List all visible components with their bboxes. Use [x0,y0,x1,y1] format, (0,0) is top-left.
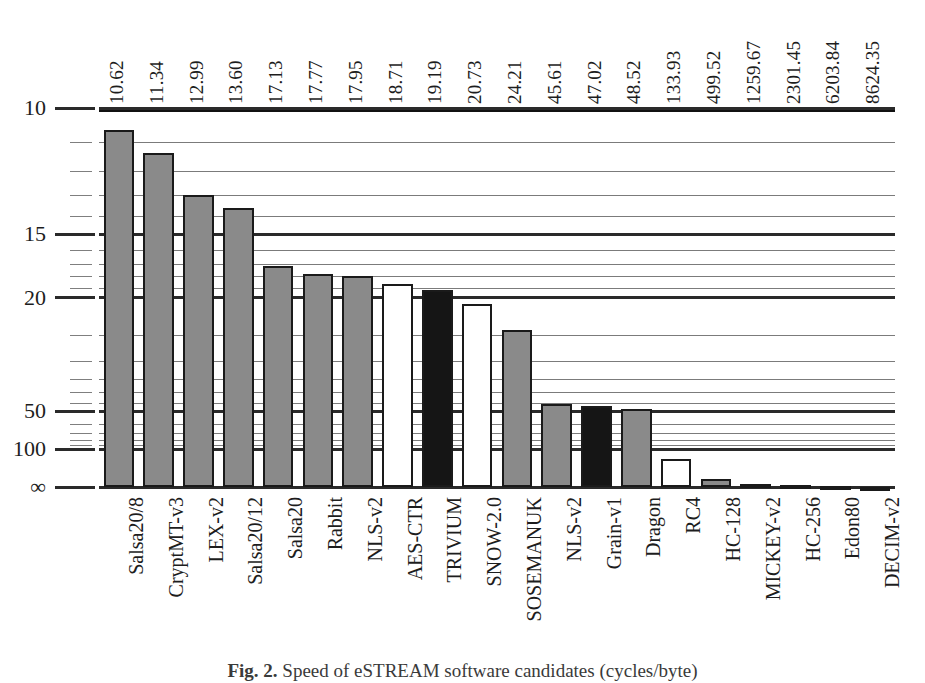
category-label-sosemanuk: SOSEMANUK [524,497,544,621]
value-label-aes-ctr: 18.71 [386,60,405,104]
bar-nls-v2[interactable] [342,276,373,487]
gridline-12 [99,171,895,172]
gridline-40 [99,392,895,393]
category-label-hc-256: HC-256 [803,497,823,561]
bar-grain-v1[interactable] [581,406,612,487]
gridline-10 [99,107,895,110]
y-tick-11 [70,142,92,143]
y-tick-label-text: 15 [24,223,46,245]
y-tick-label-text: 20 [24,287,46,309]
y-tick-19 [70,288,92,289]
gridline-16 [99,250,895,251]
gridline-80 [99,440,895,441]
category-label-grain-v1: Grain-v1 [604,497,624,569]
gridline-45 [99,403,895,404]
category-label-lex-v2: LEX-v2 [206,497,226,563]
plot-area [99,108,895,487]
category-label-mickey-v2: MICKEY-v2 [763,497,783,600]
value-label-nls-v2: 17.95 [346,60,365,104]
value-label-nls-v2: 45.61 [545,60,564,104]
y-tick-80 [70,440,92,441]
y-tick-13 [70,195,92,196]
value-label-lex-v2: 12.99 [187,60,206,104]
value-label-snow-2-0: 20.73 [465,60,484,104]
gridline-11 [99,142,895,143]
y-tick-16 [70,250,92,251]
y-tick-14 [70,216,92,217]
category-label-hc-128: HC-128 [723,497,743,561]
y-tick-30 [70,361,92,362]
bar-salsa20[interactable] [263,266,294,487]
bar-salsa20-8[interactable] [104,130,135,487]
bar-aes-ctr[interactable] [382,284,413,487]
value-label-row: 10.6211.3412.9913.6017.1317.7717.9518.71… [0,0,925,108]
bar-lex-v2[interactable] [183,195,214,487]
bar-salsa20-12[interactable] [223,208,254,487]
category-label-dragon: Dragon [643,497,663,557]
category-label-snow-2-0: SNOW-2.0 [484,497,504,586]
y-tick-90 [70,445,92,446]
y-tick-25 [70,335,92,336]
value-label-salsa20: 17.13 [266,60,285,104]
y-tick-15 [55,233,95,236]
category-label-salsa20-12: Salsa20/12 [245,497,265,585]
value-label-hc-256: 2301.45 [784,41,803,104]
bar-dragon[interactable] [621,409,652,487]
gridline-13 [99,195,895,196]
value-label-trivium: 19.19 [425,60,444,104]
gridline-17 [99,264,895,265]
gridline-35 [99,379,895,380]
bar-trivium[interactable] [422,290,453,487]
category-label-rabbit: Rabbit [325,497,345,550]
bar-sosemanuk[interactable] [502,330,533,487]
gridline-19 [99,288,895,289]
gridline-25 [99,335,895,336]
y-tick-35 [70,379,92,380]
value-label-edon80: 6203.84 [823,41,842,104]
gridline-50 [99,410,895,413]
bar-hc-128[interactable] [701,479,732,487]
y-tick-50 [55,410,95,413]
bar-rabbit[interactable] [303,274,334,487]
category-label-salsa20: Salsa20 [285,497,305,559]
value-label-dragon: 48.52 [624,60,643,104]
category-label-rc4: RC4 [683,497,703,534]
gridline-20 [99,296,895,299]
gridline-90 [99,445,895,446]
y-tick-label-text: 50 [24,400,46,422]
y-tick-20 [55,296,95,299]
category-label-nls-v2: NLS-v2 [365,497,385,561]
value-label-mickey-v2: 1259.67 [744,41,763,104]
y-tick-17 [70,264,92,265]
gridline-60 [99,424,895,425]
bar-rc4[interactable] [661,459,692,487]
gridline-18 [99,276,895,277]
gridline-14 [99,216,895,217]
bar-snow-2-0[interactable] [462,304,493,487]
y-tick-60 [70,424,92,425]
value-label-cryptmt-v3: 11.34 [147,61,166,104]
category-label-edon80: Edon80 [842,497,862,559]
y-tick-45 [70,403,92,404]
value-label-decim-v2: 8624.35 [863,41,882,104]
bar-cryptmt-v3[interactable] [143,153,174,487]
bar-nls-v2[interactable] [541,404,572,487]
y-tick-40 [70,392,92,393]
gridline-30 [99,361,895,362]
category-label-trivium: TRIVIUM [444,497,464,583]
y-tick-10 [55,107,95,110]
value-label-sosemanuk: 24.21 [505,60,524,104]
gridline-100 [99,448,895,451]
category-label-nls-v2: NLS-v2 [564,497,584,561]
value-label-salsa20-8: 10.62 [107,60,126,104]
value-label-rabbit: 17.77 [306,60,325,104]
value-label-grain-v1: 47.02 [585,60,604,104]
figure-stream-cipher-speed-chart: 10.6211.3412.9913.6017.1317.7717.9518.71… [0,0,925,683]
caption-text: Speed of eSTREAM software candidates (cy… [282,660,697,681]
value-label-rc4: 133.93 [664,51,683,104]
category-label-row: Salsa20/8CryptMT-v3LEX-v2Salsa20/12Salsa… [0,487,925,647]
value-label-salsa20-12: 13.60 [226,60,245,104]
caption-label: Fig. 2. [227,660,277,681]
category-label-salsa20-8: Salsa20/8 [126,497,146,575]
category-label-cryptmt-v3: CryptMT-v3 [166,497,186,597]
